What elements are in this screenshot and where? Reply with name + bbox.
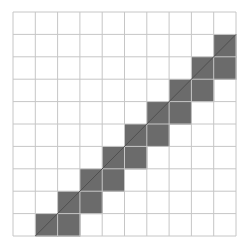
shaded-cell [80, 191, 103, 214]
shaded-cell [125, 146, 148, 169]
shaded-cell [191, 79, 214, 102]
shaded-cell [147, 124, 170, 147]
rasterized-line-diagram [0, 0, 247, 249]
grid-lines [13, 12, 236, 236]
shaded-cell [102, 169, 125, 192]
shaded-cell [214, 57, 237, 80]
diagonal-line [35, 34, 236, 236]
shaded-cell [58, 214, 81, 237]
shaded-cell [169, 102, 192, 125]
